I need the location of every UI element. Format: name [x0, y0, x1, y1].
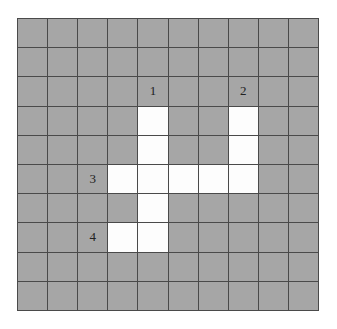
grid-cell-filled [259, 48, 289, 77]
grid-cell-open[interactable] [229, 165, 259, 194]
grid-cell-filled [48, 223, 78, 252]
grid-cell-open[interactable] [229, 136, 259, 165]
grid-cell-filled [169, 223, 199, 252]
grid-cell-filled [169, 107, 199, 136]
grid-cell-filled [289, 136, 319, 165]
grid-cell-filled [169, 282, 199, 311]
grid-cell-open[interactable] [138, 107, 168, 136]
grid-cell-filled [78, 194, 108, 223]
grid-cell-filled [289, 165, 319, 194]
grid-cell-filled [289, 253, 319, 282]
grid-cell-filled [229, 253, 259, 282]
grid-cell-filled [48, 77, 78, 106]
grid-cell-filled [199, 253, 229, 282]
grid-cell-filled [48, 165, 78, 194]
grid-cell-filled [199, 282, 229, 311]
grid-cell-filled [138, 282, 168, 311]
grid-cell-filled [108, 253, 138, 282]
grid-cell-filled: 4 [78, 223, 108, 252]
grid-cell-filled [259, 107, 289, 136]
grid-cell-filled [229, 223, 259, 252]
grid-cell-filled [78, 136, 108, 165]
grid-cell-filled [48, 19, 78, 48]
grid-cell-filled [289, 194, 319, 223]
grid-cell-filled [48, 282, 78, 311]
grid-cell-open[interactable] [199, 165, 229, 194]
grid-cell-filled [78, 48, 108, 77]
grid-cell-filled [18, 136, 48, 165]
grid-cell-filled [108, 77, 138, 106]
grid-cell-filled [108, 194, 138, 223]
clue-number-label: 4 [89, 229, 96, 245]
grid-cell-filled [169, 48, 199, 77]
clue-number-label: 3 [89, 171, 96, 187]
grid-cell-filled [78, 19, 108, 48]
grid-cell-filled [169, 194, 199, 223]
grid-cell-filled [289, 19, 319, 48]
grid-cell-open[interactable] [169, 165, 199, 194]
grid-cell-filled [78, 77, 108, 106]
grid-cell-filled [18, 19, 48, 48]
grid-cell-filled [199, 19, 229, 48]
grid-cell-filled [18, 253, 48, 282]
grid-cell-filled [18, 165, 48, 194]
grid-cell-filled [169, 253, 199, 282]
clue-number-label: 1 [150, 83, 157, 99]
grid-cell-filled [169, 136, 199, 165]
grid-cell-filled [259, 136, 289, 165]
grid-cell-filled [78, 253, 108, 282]
grid-cell-filled [18, 194, 48, 223]
grid-cell-filled [18, 77, 48, 106]
grid-cell-filled [138, 19, 168, 48]
grid-cell-open[interactable] [138, 194, 168, 223]
grid-cell-open[interactable] [138, 136, 168, 165]
grid-cell-filled [108, 48, 138, 77]
grid-cell-open[interactable] [138, 223, 168, 252]
grid-cell-filled [229, 19, 259, 48]
grid-cell-filled [289, 223, 319, 252]
grid-cell-open[interactable] [108, 165, 138, 194]
grid-cell-filled [229, 48, 259, 77]
grid-cell-filled [289, 107, 319, 136]
grid-cell-filled [108, 107, 138, 136]
grid-cell-filled [259, 19, 289, 48]
grid-cell-filled [78, 107, 108, 136]
grid-cell-filled [289, 77, 319, 106]
grid-cell-filled [18, 107, 48, 136]
grid-cell-filled [108, 19, 138, 48]
grid-cell-filled [199, 107, 229, 136]
grid-cell-filled [199, 194, 229, 223]
grid-cell-filled [169, 19, 199, 48]
grid-cell-filled [18, 223, 48, 252]
grid-cell-filled [48, 253, 78, 282]
grid-cell-open[interactable] [108, 223, 138, 252]
crossword-grid: 1234 [17, 18, 319, 311]
grid-cell-filled [259, 282, 289, 311]
grid-cell-filled [108, 136, 138, 165]
grid-cell-filled [78, 282, 108, 311]
grid-cell-filled: 2 [229, 77, 259, 106]
grid-cell-open[interactable] [138, 165, 168, 194]
grid-cell-filled [229, 282, 259, 311]
grid-cell-filled [259, 253, 289, 282]
clue-number-label: 2 [240, 83, 247, 99]
grid-cell-filled [138, 48, 168, 77]
grid-cell-filled [199, 136, 229, 165]
grid-cell-filled [18, 282, 48, 311]
grid-cell-filled: 1 [138, 77, 168, 106]
grid-cell-filled [108, 282, 138, 311]
grid-cell-filled [138, 253, 168, 282]
grid-cell-open[interactable] [229, 107, 259, 136]
grid-cell-filled [48, 194, 78, 223]
grid-cell-filled [48, 48, 78, 77]
grid-cell-filled [259, 77, 289, 106]
grid-cell-filled [199, 77, 229, 106]
grid-cell-filled [169, 77, 199, 106]
grid-cell-filled [18, 48, 48, 77]
grid-cell-filled [48, 107, 78, 136]
grid-cell-filled [48, 136, 78, 165]
grid-cell-filled [229, 194, 259, 223]
grid-cell-filled [199, 48, 229, 77]
grid-cell-filled [199, 223, 229, 252]
grid-cell-filled [289, 48, 319, 77]
